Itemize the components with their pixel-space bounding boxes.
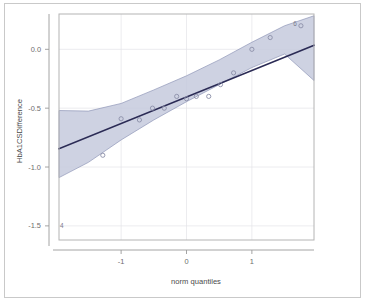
- x-tick-label: 0: [184, 257, 188, 266]
- qq-plot-figure: -1010.0-0.5-1.0-1.5 64 norm quantiles Hb…: [0, 0, 365, 302]
- x-tick-label: 1: [250, 257, 254, 266]
- y-tick-label: -0.5: [28, 104, 41, 113]
- x-tick-label: -1: [118, 257, 125, 266]
- y-tick-label: 0.0: [31, 45, 41, 54]
- point-index-label: 6: [293, 20, 297, 27]
- x-axis-title: norm quantiles: [171, 277, 221, 286]
- y-tick-label: -1.5: [28, 221, 41, 230]
- qq-plot-canvas: -1010.0-0.5-1.0-1.5 64 norm quantiles Hb…: [0, 0, 365, 302]
- point-index-label: 4: [60, 222, 64, 229]
- y-axis-title: HbA1CSDifference: [15, 99, 24, 163]
- y-tick-label: -1.0: [28, 163, 41, 172]
